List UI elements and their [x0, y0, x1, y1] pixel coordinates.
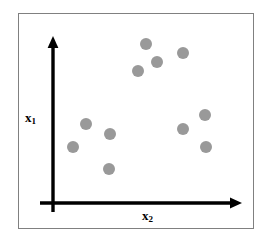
x-axis-arrowhead — [230, 198, 242, 209]
data-point — [140, 38, 152, 50]
data-point — [104, 128, 116, 140]
x-axis-label-subscript: 2 — [149, 214, 154, 224]
y-axis-arrowhead — [48, 36, 59, 48]
data-point — [132, 65, 144, 77]
data-point — [103, 163, 115, 175]
data-point — [199, 109, 211, 121]
data-point — [80, 118, 92, 130]
y-axis-label-subscript: 1 — [32, 116, 37, 126]
scatter-plot-figure: x1 x2x2 — [0, 0, 272, 243]
data-point — [200, 141, 212, 153]
y-axis-label: x1 — [25, 111, 36, 126]
data-point — [151, 56, 163, 68]
data-point — [67, 141, 79, 153]
data-point — [177, 123, 189, 135]
axes-group — [0, 0, 272, 243]
data-point — [177, 47, 189, 59]
x-axis-label: x2x2 — [142, 209, 153, 224]
